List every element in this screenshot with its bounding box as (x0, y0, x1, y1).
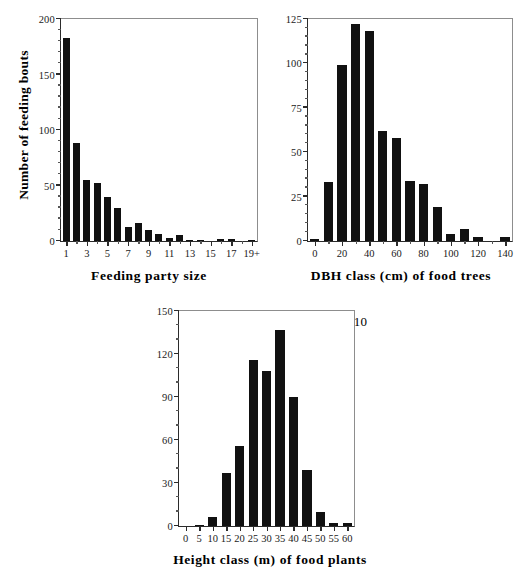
bar (114, 208, 121, 241)
bar-cell (485, 19, 499, 241)
x-tick-label: 40 (288, 533, 299, 544)
bar-cell (133, 19, 143, 241)
bar-cell (205, 19, 215, 241)
bar-cell (123, 19, 133, 241)
y-tick-label: 75 (291, 102, 308, 113)
y-tick-label: 200 (39, 14, 61, 25)
x-tick-label: 100 (443, 248, 459, 259)
bar (104, 197, 111, 241)
y-axis-label-chart1: Number of feeding bouts (16, 25, 32, 225)
x-tick-mark (226, 526, 227, 531)
x-minor-tick-mark (437, 241, 438, 244)
bar-cell (92, 19, 102, 241)
x-tick-label: 19+ (244, 248, 260, 259)
x-minor-tick-mark (138, 241, 139, 244)
bar (289, 397, 298, 526)
y-tick-label: 0 (168, 521, 179, 532)
x-tick-mark (211, 241, 212, 246)
bar-series-dbh-class (308, 19, 512, 241)
y-minor-tick-mark (58, 118, 61, 119)
x-tick-label: 45 (302, 533, 313, 544)
y-minor-tick-mark (305, 169, 308, 170)
x-tick-mark (342, 241, 343, 246)
bar (460, 229, 469, 241)
bar-cell (247, 19, 257, 241)
bar (405, 181, 414, 241)
chart-panel-dbh-class: N = 597 0255075100125020406080100120140 … (265, 0, 530, 290)
x-axis-label-chart1: Feeding party size (34, 268, 264, 284)
x-tick-mark (280, 526, 281, 531)
bar-cell (195, 19, 205, 241)
y-minor-tick-mark (305, 71, 308, 72)
y-minor-tick-mark (305, 186, 308, 187)
y-minor-tick-mark (305, 115, 308, 116)
bar-cell (236, 19, 246, 241)
bar-cell (260, 311, 273, 526)
y-minor-tick-mark (305, 27, 308, 28)
y-tick-label: 90 (162, 392, 179, 403)
x-minor-tick-mark (242, 241, 243, 244)
bar (351, 24, 360, 241)
bar-cell (219, 311, 232, 526)
y-minor-tick-mark (305, 124, 308, 125)
y-tick-label: 150 (157, 306, 179, 317)
bar-series-feeding-party-size (61, 19, 257, 241)
x-tick-mark (231, 241, 232, 246)
x-minor-tick-mark (492, 241, 493, 244)
bar-cell (154, 19, 164, 241)
bar (302, 470, 311, 526)
x-tick-label: 5 (105, 248, 110, 259)
x-tick-label: 20 (337, 248, 348, 259)
bar-cell (417, 19, 431, 241)
x-tick-label: 1 (64, 248, 69, 259)
x-tick-mark (66, 241, 67, 246)
y-minor-tick-mark (305, 35, 308, 36)
x-tick-mark (149, 241, 150, 246)
x-tick-label: 120 (470, 248, 486, 259)
y-minor-tick-mark (176, 410, 179, 411)
x-tick-mark (213, 526, 214, 531)
bar-cell (82, 19, 92, 241)
x-axis-label-chart3: Height class (m) of food plants (120, 552, 420, 568)
x-tick-mark (478, 241, 479, 246)
bar-cell (403, 19, 417, 241)
x-tick-mark (369, 241, 370, 246)
bar (63, 38, 70, 241)
x-tick-label: 60 (391, 248, 402, 259)
y-minor-tick-mark (305, 177, 308, 178)
y-minor-tick-mark (176, 467, 179, 468)
x-tick-label: 50 (315, 533, 326, 544)
plot-area-chart3: 0306090120150051015202530354045505560 (178, 310, 355, 527)
x-axis-label-chart2: DBH class (cm) of food trees (275, 268, 527, 284)
y-tick-label: 100 (286, 58, 308, 69)
chart-panel-height-class: N = 610 03060901201500510152025303540455… (120, 300, 420, 577)
bar-cell (179, 311, 192, 526)
x-minor-tick-mark (118, 241, 119, 244)
bar-cell (444, 19, 458, 241)
bar-cell (273, 311, 286, 526)
y-tick-label: 50 (291, 147, 308, 158)
y-minor-tick-mark (58, 162, 61, 163)
y-minor-tick-mark (58, 106, 61, 107)
x-tick-label: 9 (146, 248, 151, 259)
y-tick-label: 120 (157, 349, 179, 360)
x-tick-mark (293, 526, 294, 531)
bar-cell (246, 311, 259, 526)
y-tick-label: 125 (286, 14, 308, 25)
y-minor-tick-mark (305, 222, 308, 223)
y-tick-label: 0 (50, 236, 61, 247)
x-tick-label: 3 (84, 248, 89, 259)
bar (324, 182, 333, 241)
bar-cell (287, 311, 300, 526)
bar-cell (327, 311, 340, 526)
x-tick-label: 10 (207, 533, 218, 544)
y-minor-tick-mark (305, 53, 308, 54)
x-tick-mark (424, 241, 425, 246)
y-tick-label: 25 (291, 191, 308, 202)
bar-cell (102, 19, 112, 241)
x-tick-label: 13 (185, 248, 196, 259)
x-tick-mark (396, 241, 397, 246)
bar (73, 143, 80, 241)
bar-cell (498, 19, 512, 241)
bar (135, 223, 142, 241)
